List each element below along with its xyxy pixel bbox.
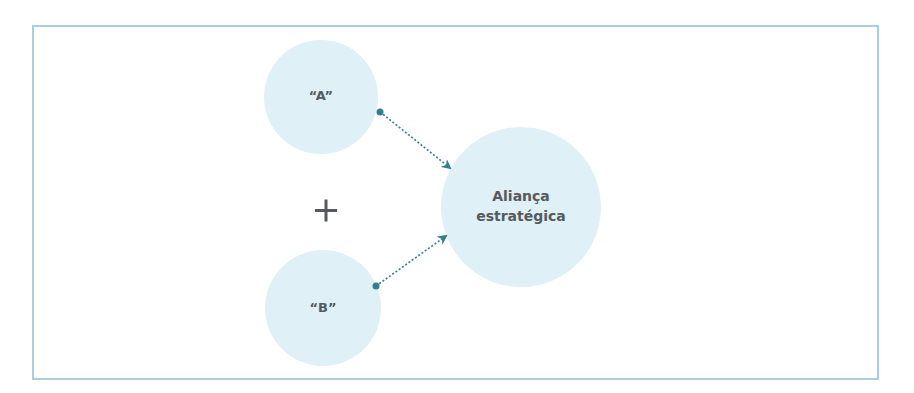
plus-icon [315, 200, 337, 222]
alliance-label-line2: estratégica [461, 206, 581, 226]
diagram-canvas [0, 0, 914, 393]
node-a-label: “A” [291, 88, 351, 103]
arrow-b-to-alliance [373, 236, 447, 290]
alliance-label-line1: Aliança [461, 186, 581, 206]
node-b-label: “B” [293, 300, 353, 315]
arrow-a-to-alliance [377, 109, 451, 169]
alliance-label: Aliança estratégica [461, 186, 581, 226]
